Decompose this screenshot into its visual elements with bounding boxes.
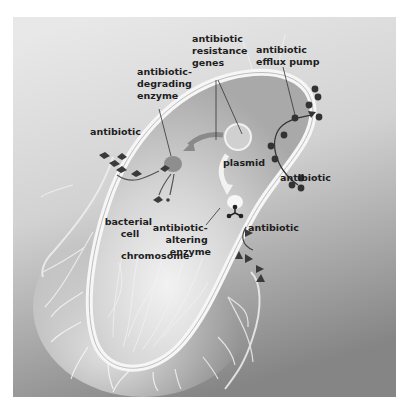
label-chromosome: chromosome — [121, 250, 190, 261]
label-efflux-pump: antibiotic efflux pump — [256, 44, 320, 67]
label-antibiotic-efflux: antibiotic — [280, 172, 331, 183]
label-antibiotic-lower: antibiotic — [248, 222, 299, 233]
label-antibiotic-left: antibiotic — [90, 126, 141, 137]
antibiotic-resistance-diagram: antibiotic resistance genes antibiotic e… — [13, 17, 396, 397]
plasmid — [225, 124, 251, 150]
label-plasmid: plasmid — [223, 157, 265, 168]
